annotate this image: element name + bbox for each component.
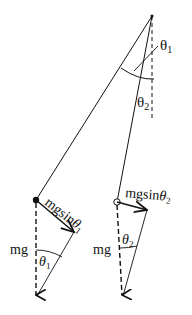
right-mg-arrow <box>117 205 122 295</box>
theta1-top-arc <box>121 68 154 79</box>
left-angle-label: θ1 <box>39 254 50 271</box>
left-mg-label: mg <box>10 242 28 257</box>
right-mgsin-arrow <box>117 202 147 210</box>
right-angle-label: θ2 <box>122 232 133 249</box>
theta2-top-label: θ2 <box>137 94 149 112</box>
right-triangle-side <box>123 210 147 296</box>
pendulum-diagram: θ1 θ2 mgsinθ1 mg θ1 mgsinθ2 mg θ2 <box>0 0 192 315</box>
theta1-top-label: θ1 <box>160 37 172 55</box>
right-mg-label: mg <box>93 242 111 257</box>
right-mgsin-label: mgsinθ2 <box>125 185 172 206</box>
left-mgsin-label: mgsinθ1 <box>41 195 87 236</box>
